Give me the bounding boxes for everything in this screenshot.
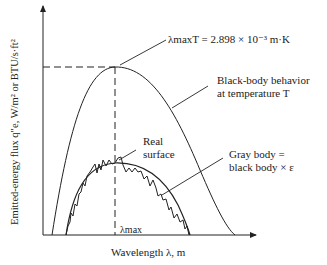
- real-surface-label-2: surface: [143, 148, 175, 160]
- gray-body-label-2: black body × ε: [229, 161, 294, 173]
- real-surface-leader-line: [119, 150, 136, 160]
- black-body-label-2: at temperature T: [217, 87, 289, 99]
- x-axis-label: Wavelength λ, m: [111, 246, 185, 258]
- lambda-max-tick-label: λmax: [120, 224, 142, 236]
- black-body-leader-line: [172, 86, 208, 108]
- y-axis-label: Emitted-energy flux q″e, W/m² or BTU/s·f…: [9, 39, 20, 225]
- black-body-label-1: Black-body behavior: [217, 74, 310, 86]
- real-surface-label-1: Real: [143, 135, 163, 147]
- diagram-canvas: Emitted-energy flux q″e, W/m² or BTU/s·f…: [0, 0, 327, 265]
- gray-body-leader-line: [162, 158, 223, 195]
- wien-law-annotation: λmaxT = 2.898 × 10⁻³ m·K: [168, 33, 290, 45]
- gray-body-label-1: Gray body =: [229, 148, 285, 160]
- wien-leader-line: [120, 40, 166, 65]
